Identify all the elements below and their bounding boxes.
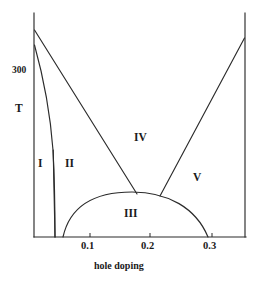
phase-diagram-plot [0, 0, 259, 287]
x-tick-label-0.3: 0.3 [203, 241, 216, 252]
upper-crossover-line [35, 30, 138, 194]
right-crossover-line [160, 38, 245, 196]
antiferromagnetic-boundary-curve [35, 45, 56, 237]
y-axis-title: T [15, 103, 23, 115]
x-tick-label-0.1: 0.1 [81, 241, 94, 252]
x-axis-title: hole doping [94, 261, 144, 271]
region-label-iv: IV [134, 132, 147, 144]
phase-diagram-figure: 300 T I II III IV V 0.1 0.2 0.3 hole dop… [0, 0, 259, 287]
region-label-v: V [193, 172, 201, 184]
y-tick-label-300: 300 [12, 66, 26, 76]
x-tick-label-0.2: 0.2 [141, 241, 154, 252]
region-label-ii: II [65, 158, 74, 170]
region-label-i: I [38, 158, 42, 170]
region-label-iii: III [124, 208, 137, 220]
